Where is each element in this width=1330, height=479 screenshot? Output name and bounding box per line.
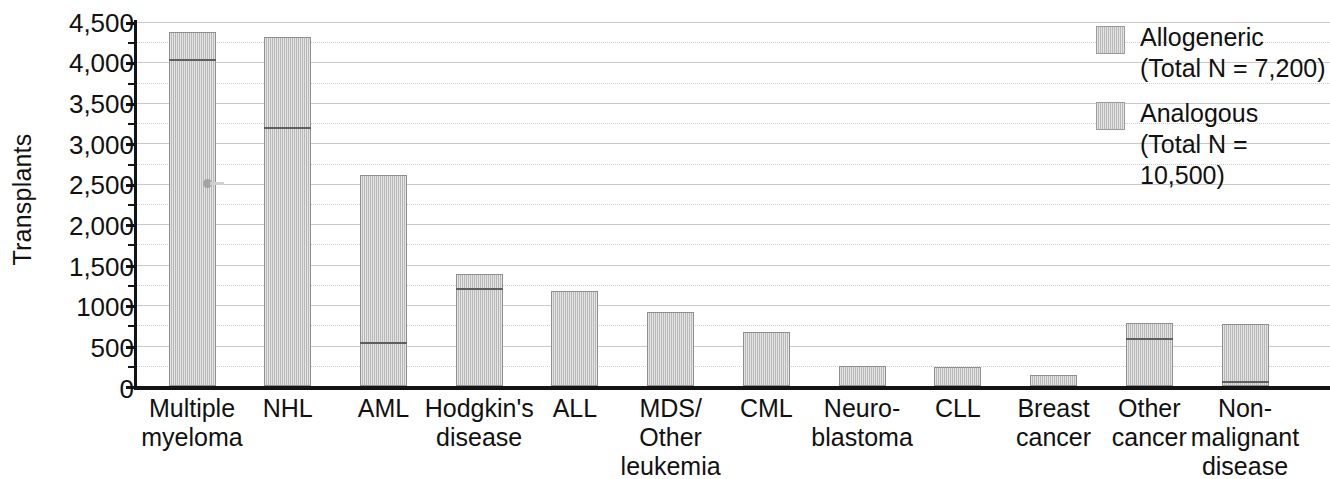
legend-label-allogeneric: Allogeneric(Total N = 7,200) [1140, 22, 1330, 84]
bar-7[interactable] [839, 366, 886, 386]
bar-segment-divider-11 [1222, 381, 1269, 383]
bar-segment-divider-2 [360, 342, 407, 344]
legend-swatch-allogeneric [1096, 26, 1125, 54]
bar-4[interactable] [551, 291, 598, 386]
bar-9[interactable] [1030, 375, 1077, 386]
y-tick-label-1500: 1,500 [14, 254, 134, 280]
y-tick-label-500: 500 [14, 335, 134, 361]
bar-segment-divider-10 [1126, 338, 1173, 340]
x-tick-label-11: Non- malignant disease [1165, 394, 1325, 479]
bar-2[interactable] [360, 175, 407, 386]
gridline-1500 [135, 265, 1330, 266]
bar-0[interactable] [169, 32, 216, 386]
y-tick-label-2000: 2,000 [14, 213, 134, 239]
y-tick-label-3500: 3,500 [14, 91, 134, 117]
bar-segment-divider-1 [264, 127, 311, 129]
y-tick-label-1000: 1000 [14, 294, 134, 320]
legend-entry-analogous[interactable]: Analogous(Total N = 10,500) [1096, 98, 1330, 191]
gridline-1250 [135, 285, 1330, 286]
y-tick-label-4000: 4,000 [14, 50, 134, 76]
legend-label-allogeneric-name: Allogeneric [1140, 23, 1264, 51]
legend-label-analogous-total: (Total N = 10,500) [1140, 130, 1248, 189]
legend: Allogeneric(Total N = 7,200) Analogous(T… [1096, 22, 1330, 205]
bar-segment-divider-0 [169, 59, 216, 61]
bar-segment-divider-3 [456, 288, 503, 290]
y-tick-label-3000: 3,000 [14, 132, 134, 158]
legend-entry-allogeneric[interactable]: Allogeneric(Total N = 7,200) [1096, 22, 1330, 84]
legend-label-analogous: Analogous(Total N = 10,500) [1140, 98, 1330, 191]
legend-label-analogous-name: Analogous [1140, 99, 1258, 127]
gridline-2000 [135, 224, 1330, 225]
bar-11[interactable] [1222, 324, 1269, 386]
bar-10[interactable] [1126, 323, 1173, 386]
bar-3[interactable] [456, 274, 503, 386]
scan-artifact-streak [210, 182, 224, 185]
legend-label-allogeneric-total: (Total N = 7,200) [1140, 54, 1326, 82]
x-axis-line [134, 386, 1330, 390]
legend-swatch-analogous [1096, 102, 1125, 130]
y-tick-label-4500: 4,500 [14, 10, 134, 36]
bar-1[interactable] [264, 37, 311, 386]
gridline-1750 [135, 244, 1330, 245]
y-axis-line [134, 20, 137, 390]
bar-8[interactable] [934, 367, 981, 386]
y-tick-label-2500: 2,500 [14, 172, 134, 198]
bar-6[interactable] [743, 332, 790, 386]
gridline-1000 [135, 305, 1330, 306]
bar-5[interactable] [647, 312, 694, 386]
